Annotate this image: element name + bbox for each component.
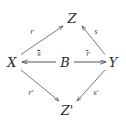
vertex-b: B [60, 56, 70, 69]
edge-label-r-bar-text: r [86, 50, 89, 58]
arrow-x-to-zprime [21, 70, 59, 101]
edge-label-s-bar: s [37, 50, 41, 58]
edge-label-s-prime: s' [93, 90, 99, 97]
edge-label-r-prime: r' [28, 90, 33, 97]
vertex-x: X [7, 56, 16, 69]
edge-label-r: r [30, 29, 33, 36]
arrow-y-to-zprime [77, 70, 105, 101]
edge-label-r-bar: r [86, 50, 89, 58]
vertex-z-prime: Z' [61, 104, 74, 117]
commutative-diagram: Z X B Y Z' r s s r r' s' [0, 0, 126, 125]
edge-label-s-bar-text: s [37, 50, 41, 58]
arrow-x-to-z [21, 26, 63, 55]
vertex-y: Y [109, 56, 118, 69]
vertex-z: Z [67, 12, 76, 25]
edge-label-s: s [94, 29, 98, 36]
